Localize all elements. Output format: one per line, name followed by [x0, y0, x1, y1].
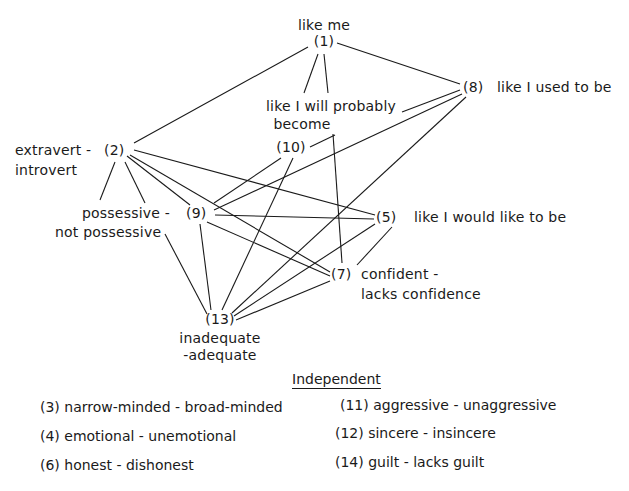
node-1-label: like me — [294, 17, 354, 34]
edge-9-13 — [200, 224, 211, 310]
edge-2-13 — [100, 162, 115, 200]
node-8-number: (8) — [463, 79, 483, 96]
legend-item: (6) honest - dishonest — [40, 457, 194, 473]
legend-item: (4) emotional - unemotional — [40, 428, 236, 444]
edge-7-13 — [236, 281, 330, 320]
node-9-number: (9) — [186, 205, 206, 222]
edge-9-7 — [207, 222, 330, 276]
node-7-number: (7) — [331, 266, 351, 283]
node-9-label-below: not possessive — [55, 224, 161, 241]
node-2-label-left: extravert - — [15, 142, 91, 159]
node-8-label: like I used to be — [497, 79, 612, 96]
node-10-label-line2: become — [262, 116, 342, 133]
node-2-number: (2) — [104, 142, 124, 159]
node-13-label-line2: -adequate — [170, 347, 270, 364]
edge-2-13b — [165, 234, 207, 314]
edge-1-8 — [337, 43, 460, 84]
node-7-label-below: lacks confidence — [361, 286, 481, 303]
edge-2-9b — [127, 156, 190, 205]
edge-2-5 — [134, 150, 375, 215]
edge-10-9 — [214, 158, 281, 203]
legend-item: (14) guilt - lacks guilt — [335, 454, 484, 470]
node-2-label-below: introvert — [15, 162, 77, 179]
edge-1-7 — [324, 54, 328, 93]
node-5-number: (5) — [376, 209, 396, 226]
node-7-label-right: confident - — [361, 266, 439, 283]
node-10-label-line1: like I will probably — [256, 98, 406, 115]
edge-8-10b — [310, 135, 335, 147]
node-10-number: (10) — [271, 139, 311, 156]
node-13-label-line1: inadequate — [170, 330, 270, 347]
node-9-label-left: possessive - — [82, 205, 170, 222]
node-1-number: (1) — [304, 33, 344, 50]
graph-edges — [0, 0, 629, 491]
legend-item: (12) sincere - insincere — [335, 425, 496, 441]
legend-title: Independent — [292, 371, 381, 389]
edge-1-10 — [304, 54, 318, 93]
edge-10-13 — [222, 158, 293, 310]
node-5-label: like I would like to be — [414, 209, 566, 226]
legend-item: (11) aggressive - unaggressive — [340, 397, 556, 413]
node-13-number: (13) — [196, 311, 244, 328]
legend-item: (3) narrow-minded - broad-minded — [40, 399, 283, 415]
